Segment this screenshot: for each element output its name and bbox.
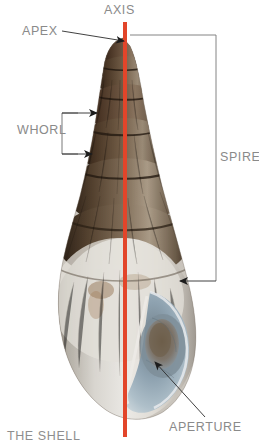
label-spire: SPIRE (220, 150, 259, 164)
shell-anatomy-figure: AXIS APEX WHORL SPIRE APERTURE THE SHELL (0, 0, 259, 445)
label-whorl: WHORL (17, 123, 67, 137)
aperture-leader-arrow (155, 362, 205, 417)
label-aperture: APERTURE (169, 420, 242, 434)
label-apex: APEX (22, 24, 58, 38)
figure-caption: THE SHELL (7, 429, 80, 443)
label-axis: AXIS (104, 3, 135, 17)
apex-leader-arrow (62, 31, 124, 41)
spire-bracket (130, 35, 216, 281)
annotation-overlay (0, 0, 259, 445)
